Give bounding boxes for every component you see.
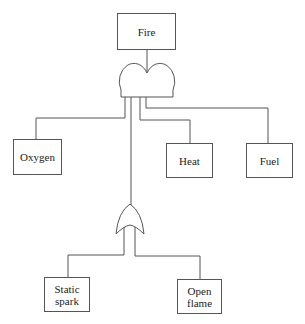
open-flame-label-line2: flame xyxy=(187,297,212,309)
static-spark-event-box: Static spark xyxy=(44,277,90,312)
fire-event-box: Fire xyxy=(117,13,176,50)
oxygen-label: Oxygen xyxy=(20,151,55,163)
open-flame-label-line1: Open xyxy=(188,285,212,297)
open-flame-event-box: Open flame xyxy=(177,279,222,314)
fuel-event-box: Fuel xyxy=(246,143,293,178)
static-spark-label-line1: Static xyxy=(54,283,79,295)
oxygen-event-box: Oxygen xyxy=(13,139,62,175)
heat-event-box: Heat xyxy=(166,143,213,178)
or-gate-icon xyxy=(116,204,144,234)
fuel-label: Fuel xyxy=(260,155,280,167)
static-spark-label-line2: spark xyxy=(55,295,79,307)
fire-label: Fire xyxy=(138,26,156,38)
heat-label: Heat xyxy=(179,155,200,167)
